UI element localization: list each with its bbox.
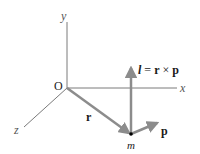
p-symbol: p <box>172 63 179 77</box>
angular-momentum-diagram <box>0 0 200 154</box>
cross-sign: × <box>159 63 172 77</box>
l-equation-label: l = r × p <box>138 64 179 76</box>
z-axis-label: z <box>14 124 19 136</box>
particle-m <box>129 132 133 136</box>
p-vector-label: p <box>161 125 168 137</box>
equals-sign: = <box>141 63 154 77</box>
z-axis <box>24 88 67 127</box>
particle-label: m <box>127 140 135 151</box>
origin-label: O <box>54 80 63 92</box>
y-axis-label: y <box>61 10 66 22</box>
r-vector-label: r <box>86 111 91 123</box>
r-vector <box>67 88 129 133</box>
x-axis-label: x <box>180 82 185 94</box>
p-vector <box>131 123 157 134</box>
